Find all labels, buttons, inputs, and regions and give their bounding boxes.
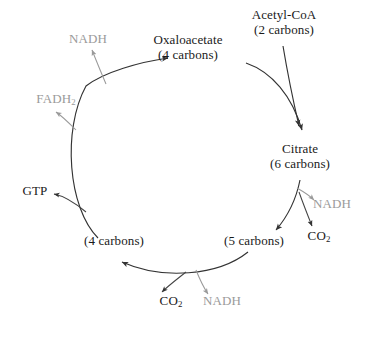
fadh2-base-text: FADH bbox=[36, 91, 71, 106]
arrow-branch-nadh-top bbox=[92, 50, 106, 84]
citrate-name: Citrate bbox=[282, 141, 318, 156]
byproduct-label-nadh-top: NADH bbox=[62, 31, 114, 47]
byproduct-label-nadh-bottom: NADH bbox=[196, 293, 248, 309]
byproduct-label-gtp: GTP bbox=[18, 183, 52, 199]
node-label-oxaloacetate: Oxaloacetate (4 carbons) bbox=[136, 33, 240, 62]
oxaloacetate-name: Oxaloacetate bbox=[153, 32, 222, 47]
arrow-five-to-four-carbons bbox=[122, 252, 248, 273]
citrate-carbons: (6 carbons) bbox=[258, 157, 342, 172]
arrow-branch-nadh-bottom bbox=[196, 270, 208, 294]
co2-bottom-subscript: 2 bbox=[178, 299, 183, 309]
arrow-four-carbons-to-oxaloacetate bbox=[71, 58, 168, 238]
co2-bottom-base-text: CO bbox=[160, 293, 178, 308]
byproduct-label-co2-bottom: CO2 bbox=[152, 293, 190, 309]
acetyl-coa-carbons: (2 carbons) bbox=[234, 23, 334, 38]
byproduct-label-fadh2: FADH2 bbox=[28, 91, 84, 107]
byproduct-label-nadh-right: NADH bbox=[306, 196, 358, 212]
arrow-citrate-to-five-carbons bbox=[276, 180, 300, 230]
gtp-text: GTP bbox=[23, 183, 48, 198]
arrow-oxaloacetate-to-citrate bbox=[246, 63, 302, 130]
byproduct-label-co2-right: CO2 bbox=[300, 228, 338, 244]
node-label-citrate: Citrate (6 carbons) bbox=[258, 142, 342, 171]
arrow-branch-co2-bottom bbox=[162, 272, 186, 292]
co2-right-subscript: 2 bbox=[326, 234, 331, 244]
co2-right-base-text: CO bbox=[308, 228, 326, 243]
node-label-acetyl-coa: Acetyl-CoA (2 carbons) bbox=[234, 8, 334, 37]
node-label-five-carbons: (5 carbons) bbox=[212, 234, 296, 249]
four-carbons-text: (4 carbons) bbox=[84, 233, 144, 248]
nadh-top-text: NADH bbox=[69, 31, 107, 46]
arrow-acetylcoa-to-citrate bbox=[283, 46, 299, 126]
nadh-bottom-text: NADH bbox=[203, 293, 241, 308]
citric-acid-cycle-diagram: Oxaloacetate (4 carbons) Acetyl-CoA (2 c… bbox=[0, 0, 378, 338]
fadh2-subscript: 2 bbox=[71, 97, 76, 107]
nadh-right-text: NADH bbox=[313, 196, 351, 211]
node-label-four-carbons: (4 carbons) bbox=[72, 234, 156, 249]
five-carbons-text: (5 carbons) bbox=[224, 233, 284, 248]
acetyl-coa-name: Acetyl-CoA bbox=[252, 7, 317, 22]
oxaloacetate-carbons: (4 carbons) bbox=[136, 48, 240, 63]
arrow-branch-fadh2 bbox=[56, 112, 76, 130]
